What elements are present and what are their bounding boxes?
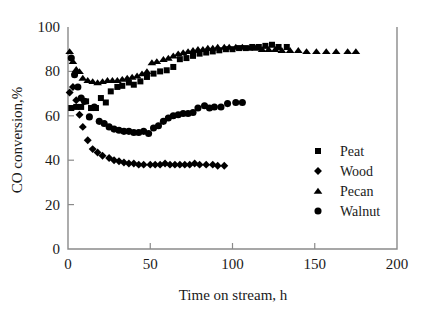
data-point-square (164, 67, 170, 73)
data-point-square (269, 42, 275, 48)
y-tick-label: 20 (45, 197, 60, 213)
data-point-circle (86, 113, 93, 120)
data-point-square (157, 68, 163, 74)
legend-label: Pecan (340, 184, 373, 199)
data-point-circle (91, 103, 98, 110)
y-tick-label: 40 (45, 152, 60, 168)
legend-label: Wood (340, 164, 373, 179)
x-axis-title: Time on stream, h (179, 287, 288, 303)
data-point-circle (217, 103, 224, 110)
data-point-circle (194, 104, 201, 111)
legend-marker-circle (314, 207, 321, 214)
data-point-square (170, 64, 176, 70)
data-point-square (177, 56, 183, 62)
chart-figure: 050100150200020406080100 PeatWoodPecanWa… (0, 0, 426, 321)
data-point-circle (74, 83, 81, 90)
data-point-square (78, 104, 84, 110)
data-point-circle (232, 99, 239, 106)
data-point-circle (81, 98, 88, 105)
data-point-circle (71, 71, 78, 78)
data-point-square (183, 55, 189, 61)
x-tick-label: 50 (143, 256, 158, 272)
legend-label: Peat (340, 144, 364, 159)
data-point-square (103, 99, 109, 105)
data-point-square (108, 88, 114, 94)
x-tick-label: 0 (64, 256, 72, 272)
x-tick-label: 100 (221, 256, 244, 272)
data-point-circle (68, 55, 75, 62)
y-tick-label: 80 (45, 63, 60, 79)
data-point-square (131, 82, 137, 88)
data-point-circle (239, 99, 246, 106)
x-tick-label: 200 (386, 256, 409, 272)
x-tick-label: 150 (304, 256, 327, 272)
data-point-square (151, 71, 157, 77)
y-axis-title: CO conversion,% (9, 87, 25, 194)
data-point-square (119, 83, 125, 89)
data-point-circle (145, 130, 152, 137)
legend-marker-square (315, 148, 321, 154)
y-tick-label: 0 (53, 241, 61, 257)
y-tick-label: 60 (45, 108, 60, 124)
y-tick-label: 100 (38, 19, 61, 35)
legend-label: Walnut (340, 204, 380, 219)
co-conversion-scatter-chart: 050100150200020406080100 PeatWoodPecanWa… (0, 0, 426, 321)
data-point-circle (211, 103, 218, 110)
data-point-circle (224, 100, 231, 107)
data-point-square (137, 78, 143, 84)
